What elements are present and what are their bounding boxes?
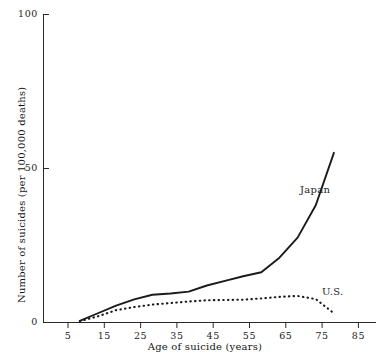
x-tick-label-85: 85 — [343, 330, 373, 341]
x-axis-title: Age of suicide (years) — [120, 341, 290, 352]
y-axis-title: Number of suicides (per 100,000 deaths) — [16, 87, 27, 303]
series-annotation-japan: Japan — [300, 184, 330, 195]
series-annotation-us: U.S. — [322, 286, 344, 297]
y-axis-ticks — [44, 15, 50, 169]
x-tick-label-25: 25 — [126, 330, 156, 341]
x-tick-label-65: 65 — [271, 330, 301, 341]
x-axis-ticks — [68, 323, 358, 329]
x-tick-label-55: 55 — [235, 330, 265, 341]
y-tick-label-0: 0 — [8, 316, 38, 327]
series-line-us — [80, 296, 334, 321]
x-tick-label-35: 35 — [162, 330, 192, 341]
x-tick-label-5: 5 — [53, 330, 83, 341]
x-tick-label-15: 15 — [89, 330, 119, 341]
chart-canvas — [0, 0, 391, 364]
x-tick-label-75: 75 — [307, 330, 337, 341]
x-tick-label-45: 45 — [198, 330, 228, 341]
series-line-japan — [80, 153, 334, 321]
y-tick-label-100: 100 — [8, 8, 38, 19]
suicide-rate-line-chart: 100 50 0 5 15 25 35 45 55 65 75 85 Age o… — [0, 0, 391, 364]
